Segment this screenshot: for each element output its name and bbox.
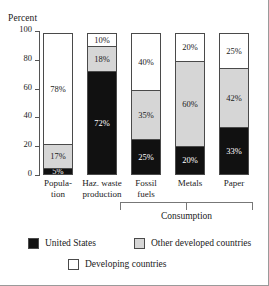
legend-swatch-united-states [28, 238, 39, 249]
chart-legend: United States Other developed countries … [0, 238, 269, 270]
legend-item-united-states[interactable]: United States [28, 238, 96, 249]
y-tick-20: 20 [35, 146, 40, 147]
segment-united-states[interactable]: 5% [43, 168, 73, 175]
bar-haz-waste-production[interactable]: 72% 18% 10% [87, 31, 117, 175]
category-label-paper: Paper [205, 178, 263, 189]
y-axis-line [39, 31, 40, 175]
segment-other-developed[interactable]: 42% [219, 68, 249, 128]
plot-area: 100 80 60 40 20 0 5% 17% [40, 31, 255, 175]
category-label-line1: Paper [205, 178, 263, 189]
y-tick-60: 60 [35, 89, 40, 90]
segment-value: 5% [52, 168, 63, 175]
segment-other-developed[interactable]: 17% [43, 144, 73, 168]
y-axis-title: Percent [8, 13, 37, 23]
segment-other-developed[interactable]: 18% [87, 46, 117, 72]
segment-value: 35% [138, 111, 154, 120]
segment-united-states[interactable]: 25% [131, 139, 161, 175]
legend-item-developing[interactable]: Developing countries [68, 259, 167, 270]
chart-figure: Percent 100 80 60 40 20 0 [0, 0, 269, 286]
bar-metals[interactable]: 20% 60% 20% [175, 31, 205, 175]
segment-united-states[interactable]: 72% [87, 71, 117, 175]
segment-united-states[interactable]: 33% [219, 127, 249, 175]
segment-value: 25% [226, 47, 242, 56]
bracket-end-right [252, 202, 253, 210]
y-tick-0: 0 [35, 175, 40, 176]
segment-value: 33% [226, 147, 242, 156]
segment-other-developed[interactable]: 60% [175, 61, 205, 147]
segment-value: 40% [138, 58, 154, 67]
segment-developing[interactable]: 25% [219, 33, 249, 69]
segment-value: 20% [182, 156, 198, 165]
y-tick-100: 100 [35, 31, 40, 32]
legend-row-primary: United States Other developed countries [0, 238, 269, 249]
bracket-end-left [120, 202, 121, 210]
legend-swatch-other-developed [134, 238, 145, 249]
segment-other-developed[interactable]: 35% [131, 90, 161, 140]
segment-value: 18% [94, 55, 110, 64]
segment-value: 78% [50, 85, 66, 94]
segment-developing[interactable]: 10% [87, 33, 117, 47]
legend-row-secondary: Developing countries [0, 259, 269, 270]
bar-population[interactable]: 5% 17% 78% [43, 31, 73, 175]
y-tick-40: 40 [35, 117, 40, 118]
category-label-line2: fuels [117, 189, 175, 200]
legend-label-united-states: United States [45, 239, 96, 249]
y-tick-label-40: 40 [24, 111, 33, 120]
y-tick-label-80: 80 [24, 54, 33, 63]
segment-developing[interactable]: 40% [131, 33, 161, 91]
legend-label-developing: Developing countries [85, 260, 167, 270]
legend-swatch-developing [68, 259, 79, 270]
segment-developing[interactable]: 20% [175, 33, 205, 62]
y-tick-label-0: 0 [28, 169, 32, 178]
bracket-stem [186, 202, 187, 210]
bar-paper[interactable]: 33% 42% 25% [219, 31, 249, 175]
consumption-label: Consumption [120, 211, 253, 221]
segment-value: 42% [226, 94, 242, 103]
legend-item-other-developed[interactable]: Other developed countries [134, 238, 251, 249]
segment-value: 10% [94, 36, 110, 45]
segment-value: 17% [50, 152, 66, 161]
y-tick-label-100: 100 [19, 25, 32, 34]
segment-value: 25% [138, 153, 154, 162]
consumption-bracket [120, 202, 253, 211]
legend-label-other-developed: Other developed countries [151, 239, 251, 249]
segment-united-states[interactable]: 20% [175, 146, 205, 175]
bar-fossil-fuels[interactable]: 25% 35% 40% [131, 31, 161, 175]
segment-value: 72% [94, 119, 110, 128]
y-tick-label-60: 60 [24, 83, 33, 92]
segment-value: 20% [182, 43, 198, 52]
y-tick-label-20: 20 [24, 140, 33, 149]
segment-developing[interactable]: 78% [43, 33, 73, 145]
segment-value: 60% [182, 100, 198, 109]
y-tick-80: 80 [35, 60, 40, 61]
